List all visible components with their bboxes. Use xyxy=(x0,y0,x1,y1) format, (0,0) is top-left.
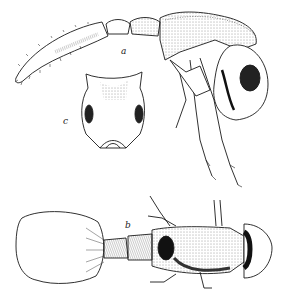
view-b-dorsal xyxy=(16,196,272,288)
label-b: b xyxy=(125,221,131,230)
label-a: a xyxy=(121,47,126,56)
view-c-head xyxy=(82,72,145,148)
label-c: c xyxy=(63,117,68,126)
insect-illustration xyxy=(0,0,285,296)
figure: a c b xyxy=(0,0,285,296)
